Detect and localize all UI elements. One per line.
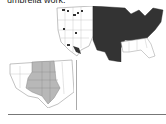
figure-divider: [76, 60, 77, 110]
inset-map-figure: [8, 58, 74, 108]
caption-text: umbrella work.: [7, 0, 66, 5]
us-map-figure: [55, 6, 165, 62]
horizontal-rule: [8, 114, 166, 115]
